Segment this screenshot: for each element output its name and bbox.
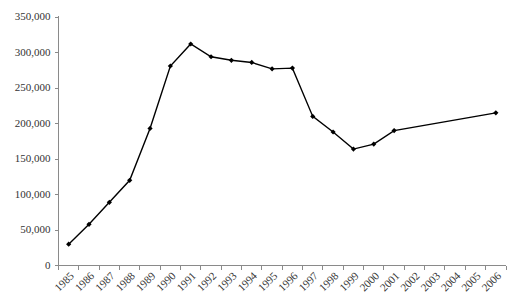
- series-line-1: [69, 44, 496, 244]
- data-point-marker: [493, 110, 498, 115]
- x-axis-tick-label: 2005: [459, 269, 483, 293]
- x-axis-tick-label: 1997: [296, 269, 320, 293]
- series-group: [66, 41, 498, 246]
- x-axis-tick-label: 1995: [255, 269, 279, 293]
- y-axis-tick-labels: 050,000100,000150,000200,000250,000300,0…: [15, 10, 51, 271]
- line-chart: 050,000100,000150,000200,000250,000300,0…: [0, 0, 512, 306]
- x-axis-tick-labels: 1985198619871988198919901991199219931994…: [52, 269, 504, 293]
- x-axis-tick-label: 1996: [276, 269, 300, 293]
- x-axis-tick-label: 1988: [113, 269, 137, 293]
- x-axis-tick-label: 1990: [154, 269, 178, 293]
- data-point-marker: [249, 60, 254, 65]
- y-axis-tick-label: 150,000: [15, 152, 51, 164]
- y-axis-tick-label: 300,000: [15, 46, 51, 58]
- y-axis-tick-label: 200,000: [15, 117, 51, 129]
- x-axis-tick-label: 1994: [235, 269, 259, 293]
- chart-canvas: 050,000100,000150,000200,000250,000300,0…: [0, 0, 512, 306]
- y-axis-tick-label: 350,000: [15, 10, 51, 22]
- data-point-marker: [147, 126, 152, 131]
- x-axis-tick-label: 1993: [215, 269, 239, 293]
- x-axis-tick-label: 2000: [357, 269, 381, 293]
- x-axis-tick-label: 2006: [479, 269, 503, 293]
- y-axis-tick-label: 0: [45, 259, 51, 271]
- x-axis-tick-label: 1991: [174, 269, 198, 293]
- y-axis-tick-label: 50,000: [20, 223, 51, 235]
- x-axis-tick-label: 1989: [133, 269, 157, 293]
- series-markers-1: [66, 41, 498, 246]
- x-axis-tick-label: 2003: [418, 269, 442, 293]
- y-axis-group: 050,000100,000150,000200,000250,000300,0…: [15, 10, 59, 271]
- x-axis-tick-label: 1986: [72, 269, 96, 293]
- x-axis-tick-label: 1992: [194, 269, 218, 293]
- y-axis-tick-label: 100,000: [15, 188, 51, 200]
- y-axis-tick-label: 250,000: [15, 81, 51, 93]
- data-point-marker: [290, 66, 295, 71]
- x-axis-tick-label: 1998: [316, 269, 340, 293]
- x-axis-tick-label: 1999: [337, 269, 361, 293]
- x-axis-tick-label: 2001: [377, 269, 401, 293]
- x-axis-ticks: [59, 266, 507, 270]
- x-axis-tick-label: 2004: [439, 269, 463, 293]
- x-axis-tick-label: 1985: [52, 269, 76, 293]
- y-axis-ticks: [55, 17, 59, 266]
- x-axis-tick-label: 1987: [93, 269, 117, 293]
- x-axis-tick-label: 2002: [398, 269, 422, 293]
- x-axis-group: 1985198619871988198919901991199219931994…: [52, 266, 506, 294]
- data-point-marker: [269, 66, 274, 71]
- data-point-marker: [229, 58, 234, 63]
